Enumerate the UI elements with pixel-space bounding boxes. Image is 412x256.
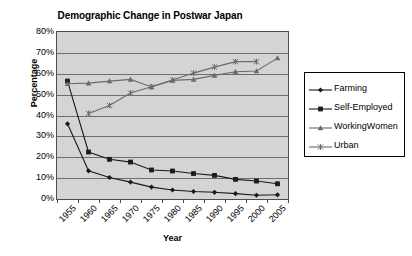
plot-area xyxy=(56,31,289,200)
x-tick-mark xyxy=(204,199,205,203)
x-tick-mark xyxy=(78,199,79,203)
x-tick-mark xyxy=(57,199,58,203)
series-line-urban xyxy=(89,62,257,114)
data-point-diamond xyxy=(254,193,259,198)
data-point-diamond xyxy=(191,189,196,194)
y-tick-label: 10% xyxy=(20,172,54,182)
legend-item-self-employed[interactable]: Self-Employed xyxy=(308,97,404,116)
data-point-square xyxy=(107,157,112,162)
data-point-diamond xyxy=(212,190,217,195)
data-point-square xyxy=(318,106,323,111)
y-axis-ticks: 0%10%20%30%40%50%60%70%80% xyxy=(16,0,54,256)
y-tick-label: 70% xyxy=(20,47,54,57)
legend-label: Self-Employed xyxy=(334,102,393,112)
data-point-square xyxy=(170,169,175,174)
legend-label: Farming xyxy=(334,83,367,93)
x-tick-mark xyxy=(267,199,268,203)
data-point-diamond xyxy=(233,191,238,196)
data-point-square xyxy=(275,181,280,186)
data-point-square xyxy=(233,177,238,182)
x-tick-mark xyxy=(162,199,163,203)
x-tick-mark xyxy=(99,199,100,203)
legend-item-urban[interactable]: Urban xyxy=(308,135,404,154)
data-point-diamond xyxy=(170,187,175,192)
x-tick-mark xyxy=(246,199,247,203)
y-tick-label: 40% xyxy=(20,110,54,120)
data-point-square xyxy=(212,173,217,178)
data-point-diamond xyxy=(65,121,70,126)
legend-key-x-icon xyxy=(308,139,333,151)
y-tick-label: 20% xyxy=(20,151,54,161)
chart-container: Demographic Change in Postwar Japan Perc… xyxy=(0,0,412,256)
x-tick-mark xyxy=(288,199,289,203)
plot-series-svg xyxy=(57,32,288,199)
data-point-diamond xyxy=(275,192,280,197)
data-point-square xyxy=(149,168,154,173)
data-point-diamond xyxy=(107,175,112,180)
series-line-farming xyxy=(68,124,278,195)
chart-legend: FarmingSelf-EmployedWorkingWomenUrban xyxy=(304,72,405,157)
x-tick-mark xyxy=(120,199,121,203)
y-tick-label: 50% xyxy=(20,89,54,99)
legend-key-triangle-icon xyxy=(308,120,333,132)
data-point-square xyxy=(191,171,196,176)
x-axis-title: Year xyxy=(56,233,289,243)
data-point-x xyxy=(86,111,91,117)
y-tick-label: 0% xyxy=(20,193,54,203)
data-point-diamond xyxy=(128,179,133,184)
y-tick-label: 80% xyxy=(20,26,54,36)
legend-key-diamond-icon xyxy=(308,82,333,94)
legend-label: Urban xyxy=(334,140,359,150)
data-point-diamond xyxy=(149,185,154,190)
data-point-diamond xyxy=(318,87,323,92)
legend-item-farming[interactable]: Farming xyxy=(308,78,404,97)
x-tick-mark xyxy=(183,199,184,203)
x-tick-mark xyxy=(225,199,226,203)
data-point-square xyxy=(86,150,91,155)
data-point-triangle xyxy=(275,55,281,60)
legend-label: WorkingWomen xyxy=(334,121,398,131)
y-tick-label: 60% xyxy=(20,68,54,78)
data-point-diamond xyxy=(86,168,91,173)
series-line-self-employed xyxy=(68,81,278,184)
data-point-square xyxy=(128,160,133,165)
legend-item-workingwomen[interactable]: WorkingWomen xyxy=(308,116,404,135)
data-point-x xyxy=(107,103,112,109)
data-point-square xyxy=(254,179,259,184)
y-tick-label: 30% xyxy=(20,130,54,140)
legend-key-square-icon xyxy=(308,101,333,113)
x-tick-mark xyxy=(141,199,142,203)
